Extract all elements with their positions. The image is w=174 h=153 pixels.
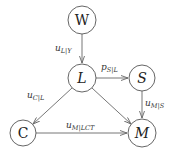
svg-text:W: W <box>75 12 90 28</box>
edge-label-l-s: pS|L <box>101 62 118 74</box>
node-l: L <box>68 64 96 92</box>
node-c: C <box>10 120 36 146</box>
node-m: M <box>128 119 156 147</box>
edge-label-w-l: uL|Y <box>55 43 72 55</box>
node-w: W <box>68 6 96 34</box>
svg-text:C: C <box>18 125 29 141</box>
edge-l-to-m <box>92 88 131 124</box>
causal-diagram: uL|Y pS|L uC|L uM|S uM|LCT W L S C M <box>0 0 174 153</box>
svg-text:L: L <box>76 70 86 86</box>
node-s: S <box>129 65 155 91</box>
edge-label-c-m: uM|LCT <box>66 120 95 132</box>
svg-text:S: S <box>137 70 147 86</box>
svg-text:M: M <box>134 125 150 141</box>
edge-label-l-c: uC|L <box>27 90 44 102</box>
edge-label-s-m: uM|S <box>145 98 165 110</box>
